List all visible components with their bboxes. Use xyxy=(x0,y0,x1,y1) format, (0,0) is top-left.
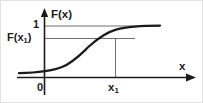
fx1-close-paren: ) xyxy=(28,31,32,43)
y-axis-arrow-icon xyxy=(41,8,48,17)
x-axis-label: x xyxy=(179,61,185,73)
cdf-figure: F(x) x 1 F(x1) 0 x1 xyxy=(0,0,203,103)
cdf-curve xyxy=(19,26,160,74)
origin-label: 0 xyxy=(37,82,43,93)
cdf-plot-svg xyxy=(0,0,203,103)
x1-subscript: 1 xyxy=(114,86,118,95)
fx1-base: F(x xyxy=(7,31,24,43)
x-axis-arrow-icon xyxy=(186,74,196,82)
y-tick-label-fx1: F(x1) xyxy=(7,32,31,44)
y-axis-label: F(x) xyxy=(51,9,72,21)
x-tick-label-x1: x1 xyxy=(108,82,119,95)
y-tick-label-one: 1 xyxy=(33,19,39,30)
